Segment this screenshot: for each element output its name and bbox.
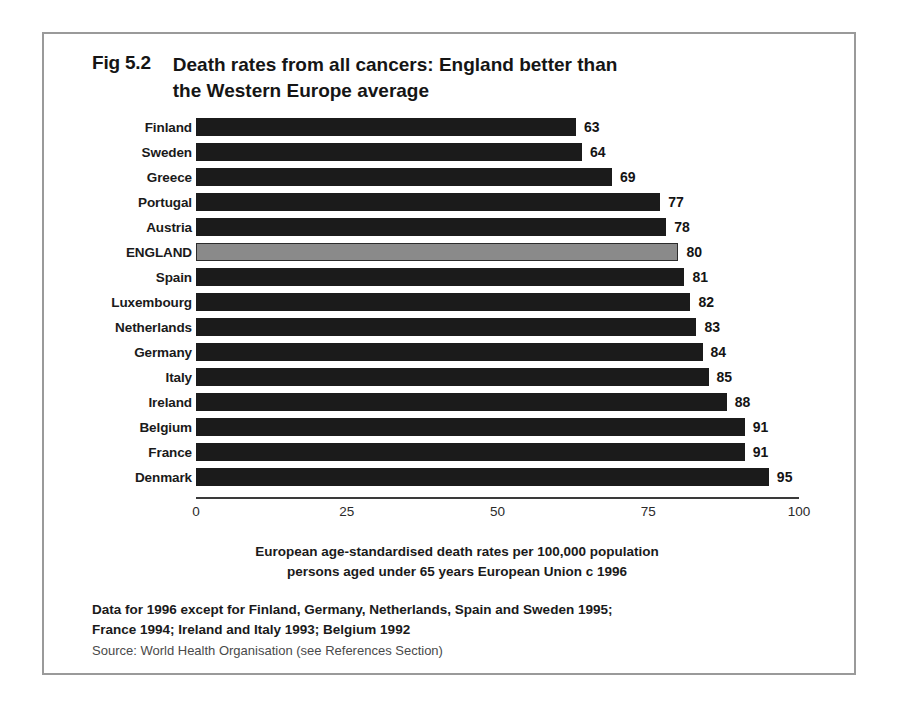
- bar-value-label: 63: [584, 119, 600, 135]
- bar-track: 63: [196, 118, 848, 136]
- bar-category-label: Greece: [44, 169, 192, 184]
- bar: [196, 218, 666, 236]
- bar-row: Spain81: [44, 264, 858, 289]
- x-axis-tick-label: 75: [641, 504, 656, 519]
- bar: [196, 393, 727, 411]
- bar-value-label: 88: [735, 394, 751, 410]
- figure-frame: Fig 5.2 Death rates from all cancers: En…: [42, 32, 856, 675]
- bar-value-label: 95: [777, 469, 793, 485]
- bar-category-label: Ireland: [44, 394, 192, 409]
- footnote-note-line-2: France 1994; Ireland and Italy 1993; Bel…: [92, 620, 830, 640]
- bar-row: Germany84: [44, 339, 858, 364]
- bar-row: Portugal77: [44, 189, 858, 214]
- title-line-1: Death rates from all cancers: England be…: [173, 52, 618, 78]
- bar-value-label: 80: [686, 244, 702, 260]
- bar-value-label: 85: [717, 369, 733, 385]
- figure-number: Fig 5.2: [92, 52, 173, 74]
- bar-row: Sweden64: [44, 139, 858, 164]
- bar-track: 91: [196, 418, 848, 436]
- bar: [196, 418, 745, 436]
- bar-value-label: 83: [704, 319, 720, 335]
- bar-row: Finland63: [44, 114, 858, 139]
- x-axis-tick-label: 0: [192, 504, 200, 519]
- x-axis-tick-label: 100: [788, 504, 811, 519]
- bar-chart-plot-area: Finland63Sweden64Greece69Portugal77Austr…: [44, 114, 858, 524]
- bar-value-label: 91: [753, 444, 769, 460]
- bar-track: 82: [196, 293, 848, 311]
- bar: [196, 468, 769, 486]
- bar-highlighted: [196, 243, 678, 261]
- bar: [196, 343, 703, 361]
- bar: [196, 318, 696, 336]
- bar-track: 64: [196, 143, 848, 161]
- bar-track: 69: [196, 168, 848, 186]
- title-line-2: the Western Europe average: [173, 78, 618, 104]
- bar-category-label: Netherlands: [44, 319, 192, 334]
- bar: [196, 168, 612, 186]
- bar-value-label: 78: [674, 219, 690, 235]
- bar-category-label: Austria: [44, 219, 192, 234]
- figure-title-block: Fig 5.2 Death rates from all cancers: En…: [92, 52, 834, 103]
- bar-chart-rows: Finland63Sweden64Greece69Portugal77Austr…: [44, 114, 858, 489]
- bar-value-label: 82: [698, 294, 714, 310]
- bar-row: ENGLAND80: [44, 239, 858, 264]
- bar: [196, 443, 745, 461]
- bar: [196, 193, 660, 211]
- bar-track: 81: [196, 268, 848, 286]
- bar-row: Netherlands83: [44, 314, 858, 339]
- bar-value-label: 81: [692, 269, 708, 285]
- bar-value-label: 91: [753, 419, 769, 435]
- bar-row: Ireland88: [44, 389, 858, 414]
- x-axis-tick-label: 25: [339, 504, 354, 519]
- bar-track: 80: [196, 243, 848, 261]
- bar-track: 91: [196, 443, 848, 461]
- x-axis-line: [196, 497, 799, 499]
- bar-category-label: ENGLAND: [44, 244, 192, 259]
- bar-value-label: 69: [620, 169, 636, 185]
- bar-row: Belgium91: [44, 414, 858, 439]
- caption-line-2: persons aged under 65 years European Uni…: [84, 562, 830, 582]
- bar-row: Greece69: [44, 164, 858, 189]
- bar-row: Denmark95: [44, 464, 858, 489]
- bar-value-label: 77: [668, 194, 684, 210]
- caption-line-1: European age-standardised death rates pe…: [84, 542, 830, 562]
- x-axis-caption: European age-standardised death rates pe…: [84, 542, 830, 581]
- bar-category-label: Sweden: [44, 144, 192, 159]
- bar-category-label: Portugal: [44, 194, 192, 209]
- x-axis-tick-label: 50: [490, 504, 505, 519]
- bar-track: 95: [196, 468, 848, 486]
- bar-value-label: 84: [711, 344, 727, 360]
- bar-track: 85: [196, 368, 848, 386]
- bar: [196, 368, 709, 386]
- bar-track: 78: [196, 218, 848, 236]
- bar-category-label: Finland: [44, 119, 192, 134]
- bar-track: 77: [196, 193, 848, 211]
- bar-row: France91: [44, 439, 858, 464]
- footnote-note-line-1: Data for 1996 except for Finland, German…: [92, 600, 830, 620]
- page-title: Death rates from all cancers: England be…: [173, 52, 618, 103]
- footnote-source: Source: World Health Organisation (see R…: [92, 642, 830, 660]
- bar-category-label: Denmark: [44, 469, 192, 484]
- bar-category-label: Italy: [44, 369, 192, 384]
- bar-row: Italy85: [44, 364, 858, 389]
- bar-value-label: 64: [590, 144, 606, 160]
- bar-row: Austria78: [44, 214, 858, 239]
- bar-category-label: France: [44, 444, 192, 459]
- bar-track: 88: [196, 393, 848, 411]
- bar-row: Luxembourg82: [44, 289, 858, 314]
- bar-category-label: Luxembourg: [44, 294, 192, 309]
- bar: [196, 143, 582, 161]
- bar-track: 83: [196, 318, 848, 336]
- bar-track: 84: [196, 343, 848, 361]
- bar: [196, 268, 684, 286]
- bar: [196, 293, 690, 311]
- bar: [196, 118, 576, 136]
- bar-category-label: Spain: [44, 269, 192, 284]
- footnotes-block: Data for 1996 except for Finland, German…: [92, 600, 830, 660]
- bar-category-label: Belgium: [44, 419, 192, 434]
- bar-category-label: Germany: [44, 344, 192, 359]
- x-axis: 0255075100: [196, 497, 848, 537]
